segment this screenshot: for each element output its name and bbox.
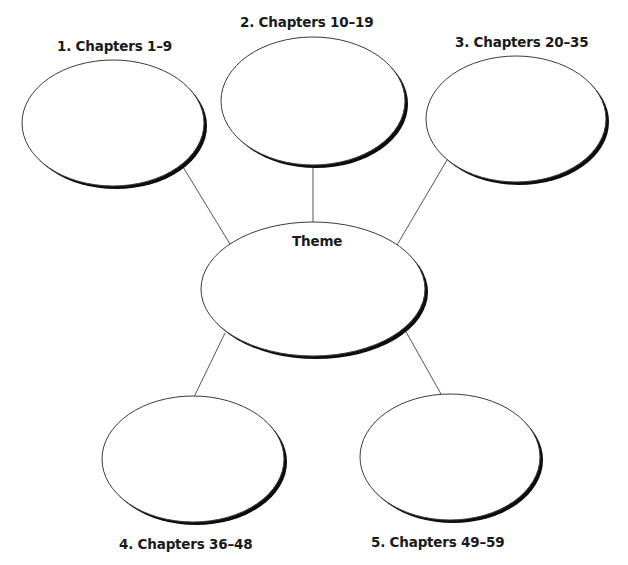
connector-center-node-4 [194, 333, 225, 397]
chapter-bubble-2[interactable] [221, 37, 408, 168]
bubble-outline[interactable] [360, 394, 540, 520]
theme-web-diagram [0, 0, 628, 565]
connector-center-node-5 [405, 330, 441, 394]
chapter-bubble-1[interactable] [22, 60, 207, 189]
theme-label: Theme [292, 233, 342, 249]
node-2-label: 2. Chapters 10–19 [240, 14, 373, 30]
bubble-outline[interactable] [426, 56, 606, 182]
bubble-outline[interactable] [22, 60, 204, 186]
node-3-label: 3. Chapters 20–35 [455, 34, 588, 50]
node-5-label: 5. Chapters 49–59 [371, 534, 504, 550]
node-1-label: 1. Chapters 1–9 [57, 38, 172, 54]
connector-node-3-center [397, 160, 447, 245]
node-4-label: 4. Chapters 36–48 [119, 536, 252, 552]
connector-node-1-center [183, 167, 230, 244]
bubble-outline[interactable] [221, 37, 405, 165]
chapter-bubble-5[interactable] [360, 394, 543, 523]
chapter-bubble-3[interactable] [426, 56, 609, 185]
chapter-bubble-4[interactable] [102, 396, 287, 525]
bubble-outline[interactable] [102, 396, 284, 522]
